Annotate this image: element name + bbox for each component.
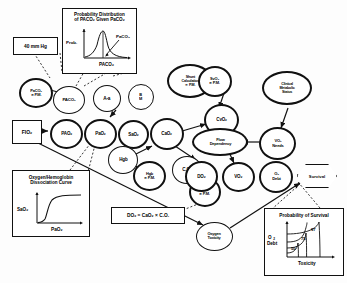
node-vo2-needs-label: VO₂ Needs (272, 139, 283, 147)
annotation-40mmhg-label: 40 mm Hg (24, 44, 47, 49)
node-o2-debt-label: O₂ Debt (272, 173, 280, 182)
node-vo2-label: VO₂ (235, 175, 243, 180)
node-svo2-pm[interactable]: SvO₂ ∝ P.M. (198, 66, 232, 97)
node-survival[interactable]: Survival (297, 164, 337, 188)
node-fio2[interactable]: FIO₂ (12, 120, 42, 144)
node-paco2-alveolar-label: PACO₂ (62, 98, 75, 103)
prob-dist-ylabel: Prob. (66, 40, 77, 45)
node-do2-label: DO₂ (197, 174, 205, 179)
node-survival-label: Survival (309, 174, 325, 179)
node-flow-dependency-label: Flow Dependency (209, 138, 231, 146)
survival-ylabel-2: Debt (267, 241, 278, 246)
node-cvo2-label: CvO₂ (216, 118, 227, 123)
panel-dissoc-title: Oxygen/Hemoglobin Dissociation Curve (13, 171, 89, 186)
node-pao2-alveolar[interactable]: PAO₂ (50, 119, 83, 149)
panel-prob-title: Probability Distribution of PACO₂ Given … (63, 9, 136, 23)
node-vo2[interactable]: VO₂ (222, 162, 255, 192)
node-paco2-pm[interactable]: PaCO₂ ∝ P.M. (19, 78, 53, 108)
annotation-do2-formula-label: DO₂ = CaO₂ × C.O. (127, 213, 169, 218)
survival-plot: 97 75 50 O 2 Debt Toxicity (265, 219, 343, 269)
node-hgb-pm-label: Hgb ∝ P.M. (144, 172, 154, 180)
node-aa-gradient-label: A-a (103, 96, 110, 101)
node-hgb-pm[interactable]: Hgb ∝ P.M. (133, 161, 166, 191)
panel-survival-title: Probability of Survival (265, 209, 343, 218)
dissoc-ylabel: SaO₂ (17, 207, 28, 212)
prob-dist-plot: Prob. PaCO₂ PACO₂ (63, 24, 136, 70)
node-aa-gradient[interactable]: A-a (93, 85, 121, 112)
node-cao2[interactable]: CaO₂ (150, 118, 184, 150)
node-svo2-pm-label: SvO₂ ∝ P.M. (210, 77, 220, 85)
node-paco2-pm-label: PaCO₂ ∝ P.M. (30, 89, 42, 97)
node-pao2-arterial[interactable]: PaO₂ (84, 119, 117, 149)
panel-dissociation-curve: Oxygen/Hemoglobin Dissociation Curve SaO… (12, 170, 90, 237)
panel-probability-of-survival: Probability of Survival 97 75 50 (264, 208, 344, 276)
node-clinical-metabolic-status-label: Clinical Metabolic Status (279, 82, 294, 94)
node-vo2-needs[interactable]: VO₂ Needs (259, 127, 296, 160)
diagram-canvas: Probability Distribution of PACO₂ Given … (0, 0, 347, 283)
survival-ylabel-1: O (268, 235, 272, 240)
node-pao2-alveolar-label: PAO₂ (61, 132, 72, 137)
annotation-do2-formula: DO₂ = CaO₂ × C.O. (111, 207, 185, 224)
node-shunt-calculation-label: Shunt Calculation ∝ P.M. (181, 75, 199, 87)
prob-dist-annotation: PaCO₂ (116, 34, 130, 39)
node-sao2[interactable]: SaO₂ (118, 120, 149, 149)
node-fio2-label: FIO₂ (22, 129, 33, 135)
survival-curve-label-97: 97 (311, 227, 316, 232)
prob-dist-xlabel: PACO₂ (99, 62, 114, 67)
dissociation-plot: SaO₂ PaO₂ (13, 188, 89, 234)
survival-curve-label-75: 75 (301, 236, 306, 241)
dissoc-xlabel: PaO₂ (51, 227, 63, 232)
node-do2[interactable]: DO₂ (185, 161, 218, 192)
survival-xlabel: Toxicity (298, 261, 316, 266)
node-oxygen-toxicity[interactable]: Oxygen Toxicity (196, 222, 233, 251)
survival-curve-label-50: 50 (291, 246, 296, 251)
node-clinical-metabolic-status[interactable]: Clinical Metabolic Status (262, 71, 312, 105)
node-paco2-alveolar[interactable]: PACO₂ (53, 86, 85, 114)
node-pao2-arterial-label: PaO₂ (95, 132, 105, 137)
panel-probability-distribution: Probability Distribution of PACO₂ Given … (62, 8, 137, 74)
node-o2-debt[interactable]: O₂ Debt (259, 161, 293, 193)
node-hgb-label: Hgb (119, 158, 127, 163)
node-cao2-label: CaO₂ (162, 132, 173, 137)
node-sao2-label: SaO₂ (128, 132, 138, 137)
node-oxygen-toxicity-label: Oxygen Toxicity (208, 232, 221, 240)
annotation-40mmhg: 40 mm Hg (13, 37, 58, 55)
node-bm[interactable]: B M (128, 84, 154, 110)
node-bm-label: B M (139, 93, 142, 101)
node-flow-dependency[interactable]: Flow Dependency (192, 128, 248, 156)
